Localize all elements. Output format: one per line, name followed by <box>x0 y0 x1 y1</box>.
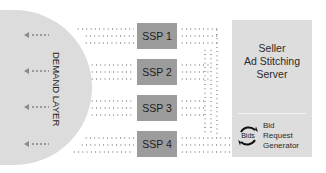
connector-dots <box>210 48 212 134</box>
connector-dots <box>90 100 134 102</box>
connector-dots <box>180 42 218 44</box>
connector-dots <box>180 35 218 37</box>
connector-dots <box>180 64 212 66</box>
connector-dots <box>90 107 134 109</box>
title-line: Seller <box>232 42 312 55</box>
connector-dots <box>76 28 134 30</box>
bid-request-generator-label: Bid Request Generator <box>263 121 299 151</box>
connector-dots <box>72 151 134 153</box>
connector-dots <box>90 78 134 80</box>
connector-dots <box>180 100 206 102</box>
label-line: Request <box>263 131 299 141</box>
connector-dots <box>180 28 218 30</box>
ssp-box-1: SSP 1 <box>137 23 177 49</box>
connector-dots <box>180 107 206 109</box>
connector-dots <box>180 151 232 153</box>
arrow-left-icon <box>24 32 52 38</box>
connector-dots <box>84 137 134 139</box>
ssp-box-4: SSP 4 <box>137 131 177 157</box>
connector-dots <box>204 48 206 134</box>
connector-dots <box>180 78 212 80</box>
ssp-box-3: SSP 3 <box>137 95 177 121</box>
arrow-left-icon <box>24 141 52 147</box>
connector-dots <box>90 71 134 73</box>
label-line: Bid <box>263 121 299 131</box>
connector-dots <box>180 114 206 116</box>
seller-server-title: Seller Ad Stitching Server <box>232 42 312 81</box>
arrow-left-icon <box>24 104 52 110</box>
connector-dots <box>90 114 134 116</box>
title-line: Server <box>232 68 312 81</box>
connector-dots <box>180 71 212 73</box>
connector-dots <box>90 64 134 66</box>
ssp-box-2: SSP 2 <box>137 59 177 85</box>
connector-dots <box>80 144 134 146</box>
label-line: Generator <box>263 141 299 151</box>
connector-dots <box>180 137 232 139</box>
connector-dots <box>84 35 134 37</box>
connector-dots <box>84 42 134 44</box>
title-line: Ad Stitching <box>232 55 312 68</box>
connector-dots <box>216 28 218 134</box>
bids-label: Bids <box>237 132 259 139</box>
divider <box>238 113 306 114</box>
connector-dots <box>180 144 232 146</box>
seller-ad-stitching-server: Seller Ad Stitching Server Bids Bid Requ… <box>232 20 312 157</box>
arrow-left-icon <box>24 68 52 74</box>
